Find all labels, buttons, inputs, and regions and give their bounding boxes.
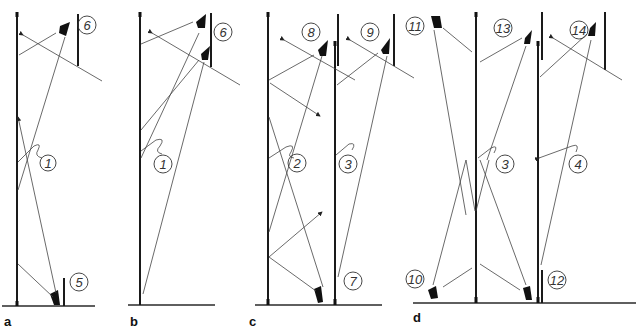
- light-ray: [480, 264, 520, 290]
- wall-cap: [334, 41, 337, 46]
- lamp-icon: [431, 16, 442, 28]
- lamp-icon: [318, 40, 328, 56]
- light-ray: [466, 160, 475, 211]
- leader-line: [539, 145, 577, 158]
- marker-label: 11: [408, 19, 422, 34]
- marker-label: 3: [344, 157, 352, 172]
- leader-line: [336, 144, 354, 155]
- panel-label: a: [4, 314, 12, 329]
- reflected-ray: [269, 212, 322, 257]
- leader-line: [18, 145, 42, 162]
- light-ray: [433, 160, 466, 285]
- marker-label: 7: [349, 274, 357, 289]
- wall-cap: [537, 41, 540, 46]
- marker-label: 1: [44, 156, 51, 171]
- lamp-icon: [59, 22, 70, 36]
- light-ray: [269, 55, 314, 80]
- reflected-ray: [553, 38, 622, 80]
- panel-label: d: [413, 310, 421, 325]
- wall-cap: [267, 12, 270, 17]
- lamp-icon: [196, 14, 206, 28]
- marker-label: 8: [307, 25, 315, 40]
- panel-label: b: [130, 314, 138, 329]
- lamp-icon: [314, 286, 323, 303]
- wall-foot: [334, 299, 337, 305]
- light-ray: [540, 34, 587, 77]
- lamp-icon: [201, 46, 210, 60]
- leader-line: [478, 147, 496, 158]
- lamp-icon: [524, 30, 532, 44]
- lamp-icon: [588, 22, 596, 36]
- lamp-icon: [381, 38, 390, 54]
- light-ray: [443, 28, 472, 52]
- light-ray: [541, 40, 591, 265]
- panel-c: 8 9 2 3 7 c: [249, 12, 414, 329]
- reflected-ray: [23, 35, 102, 81]
- marker-label: 10: [408, 272, 423, 287]
- reflected-ray: [350, 40, 414, 78]
- light-ray: [443, 268, 472, 287]
- marker-label: 2: [292, 156, 301, 171]
- light-ray: [480, 160, 526, 285]
- wall-cap: [139, 12, 142, 17]
- panel-label: c: [249, 314, 256, 329]
- marker-label: 1: [159, 157, 166, 172]
- light-ray: [141, 22, 193, 44]
- marker-label: 9: [366, 25, 373, 40]
- light-ray: [269, 257, 316, 291]
- panel-b: 6 1 b: [128, 12, 240, 329]
- wall-cap: [16, 12, 19, 17]
- light-ray: [18, 264, 53, 297]
- marker-label: 12: [550, 273, 565, 288]
- marker-label: 14: [572, 23, 586, 38]
- wall-foot: [267, 299, 270, 305]
- light-ray: [480, 38, 522, 62]
- wall-foot: [16, 301, 19, 306]
- lamp-icon: [523, 286, 532, 300]
- light-ray: [337, 53, 378, 85]
- marker-label: 13: [496, 21, 511, 36]
- light-ray: [434, 30, 466, 215]
- wall-foot: [475, 297, 478, 303]
- reflected-ray: [152, 33, 240, 85]
- light-ray: [143, 62, 204, 294]
- reflected-ray: [284, 40, 355, 80]
- marker-label: 5: [75, 275, 83, 290]
- marker-label: 3: [501, 157, 509, 172]
- light-ray: [487, 46, 526, 160]
- marker-label: 6: [83, 18, 91, 33]
- light-ray: [141, 33, 199, 158]
- wall-cap: [475, 12, 478, 17]
- lamp-icon: [428, 286, 438, 299]
- marker-label: 6: [219, 25, 227, 40]
- wall-foot: [537, 297, 540, 303]
- light-ray: [18, 117, 56, 293]
- lamp-icon: [50, 290, 60, 305]
- lighting-reflection-diagram: 6 1 5 a 6 1 b: [0, 0, 639, 332]
- light-ray: [269, 56, 322, 232]
- marker-label: 4: [574, 157, 581, 172]
- panel-d: 11 13 14 3 4 10 12 d: [406, 12, 636, 325]
- panel-a: 6 1 5 a: [2, 12, 102, 329]
